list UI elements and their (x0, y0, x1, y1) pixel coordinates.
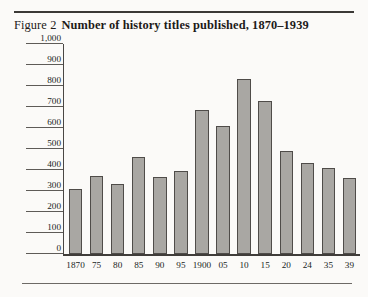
y-axis-tick-rule (26, 253, 63, 254)
y-axis-tick-rule (26, 85, 63, 86)
y-axis-tick-rule (26, 64, 63, 65)
y-axis-tick-label: 400 (47, 159, 61, 169)
bar (69, 189, 82, 254)
y-axis-tick-rule (26, 190, 63, 191)
bar (111, 184, 124, 254)
y-axis-tick-label: 700 (47, 96, 61, 106)
bar (216, 126, 229, 254)
bar (195, 110, 208, 254)
bar-column (132, 157, 145, 254)
bar (258, 101, 271, 254)
figure-root: Figure 2Number of history titles publish… (0, 0, 368, 297)
y-axis-tick-rule (26, 148, 63, 149)
figure-caption: Figure 2Number of history titles publish… (14, 16, 358, 34)
y-axis-tick-label: 0 (56, 243, 61, 253)
y-axis-tick-rule (26, 211, 63, 212)
bar-column (258, 101, 271, 254)
bar (153, 177, 166, 254)
bar-column (174, 171, 187, 254)
bar-column (322, 168, 335, 254)
bar-column (237, 79, 250, 254)
bar-column (343, 178, 356, 254)
y-axis-tick-rule (26, 169, 63, 170)
caption-top-rule (14, 11, 354, 13)
y-axis-tick-label: 200 (47, 201, 61, 211)
bar (132, 157, 145, 254)
y-axis-tick-label: 500 (47, 138, 61, 148)
y-axis-tick-label: 1,000 (40, 33, 61, 43)
bar (280, 151, 293, 254)
y-axis-tick-label: 100 (47, 222, 61, 232)
bar-column (153, 177, 166, 254)
bar (90, 176, 103, 254)
y-axis-tick-label: 900 (47, 54, 61, 64)
figure-number: Figure 2 (14, 18, 56, 32)
y-axis-tick-rule (26, 127, 63, 128)
bar-column (301, 163, 314, 254)
bar (301, 163, 314, 254)
chart-plot-area: 01002003004005006007008009001,000 187075… (26, 44, 360, 258)
x-axis: 18707580859095190005101520243539 (65, 258, 360, 274)
bar (174, 171, 187, 254)
x-axis-tick-label: 39 (336, 258, 363, 272)
y-axis: 01002003004005006007008009001,000 (26, 44, 63, 256)
y-axis-tick-rule (26, 232, 63, 233)
bar (343, 178, 356, 254)
bar (237, 79, 250, 254)
bar-column (90, 176, 103, 254)
figure-bottom-rule (22, 283, 352, 284)
y-axis-tick-label: 600 (47, 117, 61, 127)
bar-column (280, 151, 293, 254)
y-axis-tick-rule (26, 43, 63, 44)
bar-column (216, 126, 229, 254)
bar (322, 168, 335, 254)
y-axis-tick-rule (26, 106, 63, 107)
figure-title: Number of history titles published, 1870… (56, 18, 308, 32)
bar-column (69, 189, 82, 254)
bar-column (195, 110, 208, 254)
y-axis-tick-label: 300 (47, 180, 61, 190)
y-axis-tick-label: 800 (47, 75, 61, 85)
bar-column (111, 184, 124, 254)
bar-series (65, 44, 360, 255)
